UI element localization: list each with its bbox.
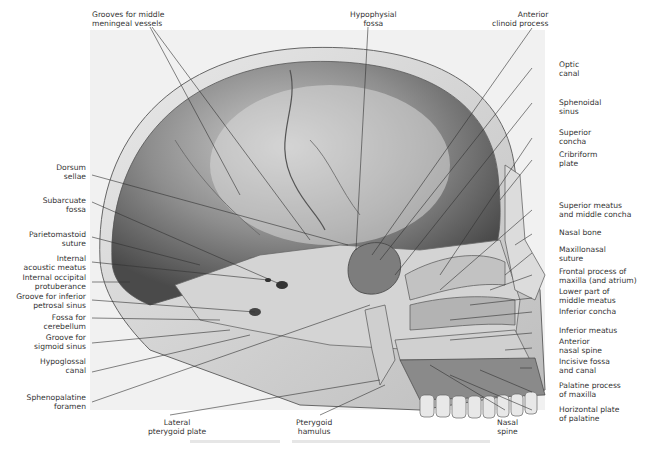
label-hypophysial-fossa: Hypophysial fossa xyxy=(350,10,397,28)
label-nasal-bone: Nasal bone xyxy=(559,228,601,237)
label-nasal-spine: Nasal spine xyxy=(497,418,518,436)
label-horizontal-plate: Horizontal plate of palatine xyxy=(559,405,619,423)
label-sphenopalatine-foramen: Sphenopalatine foramen xyxy=(27,393,86,411)
label-fossa-cerebellum: Fossa for cerebellum xyxy=(44,313,86,331)
label-grooves-meningeal: Grooves for middle meningeal vessels xyxy=(92,10,164,28)
figure-caption-illegible xyxy=(190,440,490,443)
label-lateral-pterygoid-plate: Lateral pterygoid plate xyxy=(148,418,206,436)
label-groove-inferior-petrosal: Groove for inferior petrosal sinus xyxy=(16,292,86,310)
label-dorsum-sellae: Dorsum sellae xyxy=(56,163,86,181)
label-anterior-clinoid: Anterior clinoid process xyxy=(492,10,548,28)
label-internal-occipital-protuberance: Internal occipital protuberance xyxy=(23,273,86,291)
skull-section-illustration xyxy=(0,0,653,451)
label-incisive-fossa: Incisive fossa and canal xyxy=(559,357,610,375)
label-superior-concha: Superior concha xyxy=(559,128,591,146)
label-parietomastoid-suture: Parietomastoid suture xyxy=(29,230,86,248)
label-hypoglossal-canal: Hypoglossal canal xyxy=(40,357,86,375)
label-sphenoidal-sinus: Sphenoidal sinus xyxy=(559,98,601,116)
label-pterygoid-hamulus: Pterygoid hamulus xyxy=(296,418,332,436)
label-anterior-nasal-spine: Anterior nasal spine xyxy=(559,337,602,355)
palate xyxy=(400,358,545,400)
label-frontal-process: Frontal process of maxilla (and atrium) xyxy=(559,267,637,285)
label-maxillonasal-suture: Maxillonasal suture xyxy=(559,245,606,263)
label-lower-middle-meatus: Lower part of middle meatus xyxy=(559,287,616,305)
label-superior-meatus: Superior meatus and middle concha xyxy=(559,201,631,219)
label-internal-acoustic-meatus: Internal acoustic meatus xyxy=(24,254,86,272)
label-groove-sigmoid: Groove for sigmoid sinus xyxy=(34,333,86,351)
label-optic-canal: Optic canal xyxy=(559,60,579,78)
label-inferior-concha: Inferior concha xyxy=(559,307,616,316)
label-subarcuate-fossa: Subarcuate fossa xyxy=(43,196,86,214)
label-cribriform-plate: Cribriform plate xyxy=(559,150,597,168)
label-palatine-process: Palatine process of maxilla xyxy=(559,381,621,399)
label-inferior-meatus: Inferior meatus xyxy=(559,326,617,335)
